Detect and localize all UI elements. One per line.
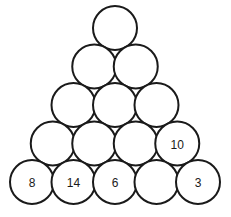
circle-outline[interactable] xyxy=(93,83,137,127)
figure-canvas: 1081463 xyxy=(0,0,231,217)
circle-value-label: 6 xyxy=(112,176,119,190)
pyramid-circle-r3-c1[interactable] xyxy=(52,83,96,127)
pyramid-circle-r4-c1[interactable] xyxy=(31,122,75,166)
circle-value-label: 14 xyxy=(67,176,81,190)
circle-pyramid-diagram: 1081463 xyxy=(0,0,231,217)
circle-value-label: 10 xyxy=(171,138,185,152)
pyramid-circle-r5-c5[interactable]: 3 xyxy=(176,160,220,204)
pyramid-circle-r4-c3[interactable] xyxy=(114,122,158,166)
circle-outline[interactable] xyxy=(72,122,116,166)
pyramid-circle-r1-c1[interactable] xyxy=(93,6,137,50)
circle-outline[interactable] xyxy=(72,45,116,89)
pyramid-circle-r4-c4[interactable]: 10 xyxy=(155,122,199,166)
circle-outline[interactable] xyxy=(135,83,179,127)
circle-outline[interactable] xyxy=(31,122,75,166)
circle-value-label: 8 xyxy=(29,176,36,190)
pyramid-circle-r2-c2[interactable] xyxy=(114,45,158,89)
pyramid-circle-r4-c2[interactable] xyxy=(72,122,116,166)
circle-outline[interactable] xyxy=(114,122,158,166)
circle-outline[interactable] xyxy=(52,83,96,127)
circle-outline[interactable] xyxy=(93,6,137,50)
pyramid-circle-r5-c2[interactable]: 14 xyxy=(52,160,96,204)
pyramid-circle-r5-c3[interactable]: 6 xyxy=(93,160,137,204)
circle-outline[interactable] xyxy=(135,160,179,204)
pyramid-circle-r3-c3[interactable] xyxy=(135,83,179,127)
circle-outline[interactable] xyxy=(114,45,158,89)
circle-value-label: 3 xyxy=(195,176,202,190)
pyramid-circle-r3-c2[interactable] xyxy=(93,83,137,127)
pyramid-circle-r2-c1[interactable] xyxy=(72,45,116,89)
circle-layer: 1081463 xyxy=(10,6,220,204)
pyramid-circle-r5-c4[interactable] xyxy=(135,160,179,204)
pyramid-circle-r5-c1[interactable]: 8 xyxy=(10,160,54,204)
